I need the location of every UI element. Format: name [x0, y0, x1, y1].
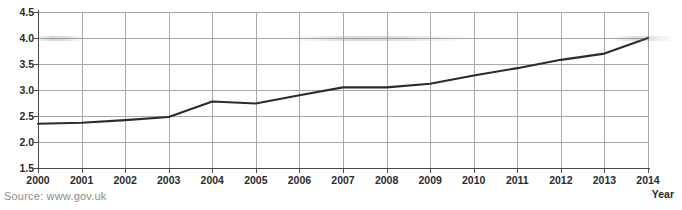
x-axis-title: Year	[652, 188, 674, 200]
x-axis-tick-mark	[648, 168, 649, 173]
y-axis-tick-label: 3.5	[4, 59, 34, 69]
cropped-title-remnant	[38, 0, 338, 2]
x-axis-tick-mark	[169, 168, 170, 173]
x-axis-tick-mark	[299, 168, 300, 173]
x-axis-tick-mark	[256, 168, 257, 173]
x-axis-tick-label: 2008	[364, 174, 410, 186]
x-axis-tick-mark	[517, 168, 518, 173]
x-axis-tick-mark	[82, 168, 83, 173]
x-axis-tick-mark	[343, 168, 344, 173]
x-axis-tick-mark	[387, 168, 388, 173]
y-axis-tick-label: 4.0	[4, 33, 34, 43]
x-axis-tick-label: 2001	[59, 174, 105, 186]
x-axis-tick-label: 2004	[189, 174, 235, 186]
gridline-vertical	[648, 12, 649, 168]
x-axis-tick-mark	[561, 168, 562, 173]
x-axis-line	[38, 168, 650, 169]
y-axis-tick-label: 2.0	[4, 137, 34, 147]
y-axis-tick-label: 2.5	[4, 111, 34, 121]
x-axis-tick-label: 2005	[233, 174, 279, 186]
y-axis-tick-label: 3.0	[4, 85, 34, 95]
chart-figure: 1.52.02.53.03.54.04.5 200020012002200320…	[0, 0, 682, 210]
x-axis-tick-label: 2003	[146, 174, 192, 186]
x-axis-tick-mark	[604, 168, 605, 173]
x-axis-tick-label: 2007	[320, 174, 366, 186]
x-axis-tick-label: 2013	[581, 174, 627, 186]
y-axis-tick-label: 1.5	[4, 163, 34, 173]
source-note: Source: www.gov.uk	[4, 190, 106, 202]
y-axis-tick-label: 4.5	[4, 7, 34, 17]
x-axis-tick-label: 2010	[451, 174, 497, 186]
x-axis-tick-mark	[474, 168, 475, 173]
x-axis-tick-label: 2009	[407, 174, 453, 186]
x-axis-tick-mark	[430, 168, 431, 173]
x-axis-tick-label: 2011	[494, 174, 540, 186]
x-axis-tick-mark	[125, 168, 126, 173]
x-axis-tick-mark	[38, 168, 39, 173]
x-axis-tick-label: 2012	[538, 174, 584, 186]
x-axis-tick-label: 2006	[276, 174, 322, 186]
x-axis-tick-label: 2014	[625, 174, 671, 186]
x-axis-tick-label: 2002	[102, 174, 148, 186]
x-axis-tick-label: 2000	[15, 174, 61, 186]
x-axis-tick-mark	[212, 168, 213, 173]
data-series-line	[38, 12, 648, 168]
